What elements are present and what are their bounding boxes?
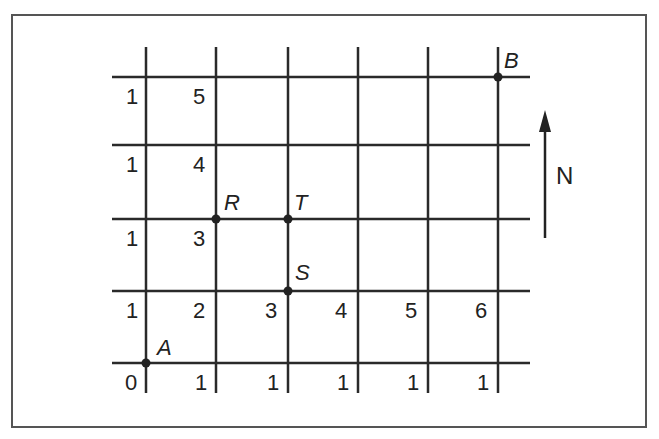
count-label: 3 [265, 300, 277, 322]
count-label: 1 [195, 372, 207, 394]
point-A-label: A [157, 337, 172, 359]
count-label: 3 [193, 228, 205, 250]
point-S-label: S [295, 262, 310, 284]
count-label: 1 [477, 372, 489, 394]
count-label: 1 [126, 228, 138, 250]
count-label: 6 [475, 300, 487, 322]
count-label: 1 [407, 372, 419, 394]
street-grid [0, 0, 659, 439]
count-label: 1 [126, 300, 138, 322]
count-label: 0 [125, 372, 137, 394]
count-label: 1 [337, 372, 349, 394]
point-B-label: B [504, 50, 519, 72]
count-label: 4 [193, 154, 205, 176]
compass-north-label: N [556, 164, 573, 188]
point-B-dot [494, 73, 503, 82]
count-label: 1 [126, 154, 138, 176]
point-R-dot [212, 215, 221, 224]
point-S-dot [284, 287, 293, 296]
point-R-label: R [224, 192, 240, 214]
count-label: 5 [405, 300, 417, 322]
count-label: 1 [267, 372, 279, 394]
point-T-label: T [294, 192, 307, 214]
point-T-dot [284, 215, 293, 224]
north-arrow-icon [539, 110, 551, 238]
count-label: 4 [335, 300, 347, 322]
count-label: 1 [126, 86, 138, 108]
count-label: 5 [193, 86, 205, 108]
count-label: 2 [193, 300, 205, 322]
point-A-dot [142, 359, 151, 368]
